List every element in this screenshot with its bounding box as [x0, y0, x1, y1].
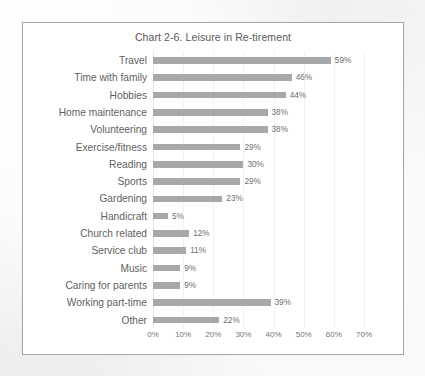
bar — [153, 230, 189, 237]
category-label: Gardening — [23, 190, 147, 207]
bar — [153, 213, 168, 220]
category-label: Service club — [23, 242, 147, 259]
bar-chart-plot-area: Travel59%Time with family46%Hobbies44%Ho… — [23, 23, 405, 356]
bar-value-label: 59% — [335, 52, 351, 69]
bar-row: Gardening23% — [23, 190, 405, 207]
category-label: Travel — [23, 52, 147, 69]
x-axis-tick-label: 50% — [296, 330, 312, 339]
x-axis-tick-label: 60% — [326, 330, 342, 339]
category-label: Reading — [23, 156, 147, 173]
bar — [153, 282, 180, 289]
category-label: Sports — [23, 173, 147, 190]
bar-row: Church related12% — [23, 225, 405, 242]
bar — [153, 299, 271, 306]
bar — [153, 196, 222, 203]
bar-row: Working part-time39% — [23, 294, 405, 311]
x-axis-tick-label: 40% — [266, 330, 282, 339]
bar-row: Handicraft5% — [23, 208, 405, 225]
bar-value-label: 22% — [223, 312, 239, 329]
category-label: Other — [23, 312, 147, 329]
bar-value-label: 11% — [190, 242, 206, 259]
bar-value-label: 29% — [244, 173, 260, 190]
bar — [153, 57, 331, 64]
category-label: Music — [23, 260, 147, 277]
bar-row: Sports29% — [23, 173, 405, 190]
bar-row: Service club11% — [23, 242, 405, 259]
bar-value-label: 5% — [172, 208, 184, 225]
category-label: Hobbies — [23, 87, 147, 104]
x-axis-tick-label: 10% — [175, 330, 191, 339]
bar — [153, 161, 243, 168]
bar — [153, 247, 186, 254]
category-label: Church related — [23, 225, 147, 242]
bar-value-label: 30% — [247, 156, 263, 173]
scanned-page: Chart 2-6. Leisure in Re-tirement Travel… — [0, 0, 425, 376]
chart-frame: Chart 2-6. Leisure in Re-tirement Travel… — [22, 22, 404, 355]
category-label: Home maintenance — [23, 104, 147, 121]
bar-row: Home maintenance38% — [23, 104, 405, 121]
category-label: Time with family — [23, 69, 147, 86]
category-label: Caring for parents — [23, 277, 147, 294]
bar-row: Exercise/fitness29% — [23, 139, 405, 156]
bar-row: Music9% — [23, 260, 405, 277]
bar-row: Time with family46% — [23, 69, 405, 86]
bar-value-label: 38% — [272, 104, 288, 121]
bar — [153, 109, 268, 116]
bar-row: Travel59% — [23, 52, 405, 69]
bar-row: Volunteering38% — [23, 121, 405, 138]
category-label: Working part-time — [23, 294, 147, 311]
bar-value-label: 38% — [272, 121, 288, 138]
x-axis-tick-label: 30% — [235, 330, 251, 339]
bar-row: Hobbies44% — [23, 87, 405, 104]
bar — [153, 178, 240, 185]
category-label: Handicraft — [23, 208, 147, 225]
bar-row: Caring for parents9% — [23, 277, 405, 294]
bar-value-label: 9% — [184, 260, 196, 277]
bar — [153, 144, 240, 151]
bar-value-label: 44% — [290, 87, 306, 104]
bar — [153, 317, 219, 324]
x-axis-tick-label: 20% — [205, 330, 221, 339]
bar-value-label: 29% — [244, 139, 260, 156]
bar-row: Other22% — [23, 312, 405, 329]
x-axis-tick-label: 70% — [356, 330, 372, 339]
bar-value-label: 9% — [184, 277, 196, 294]
bar — [153, 92, 286, 99]
bar — [153, 265, 180, 272]
bar-value-label: 12% — [193, 225, 209, 242]
bar-row: Reading30% — [23, 156, 405, 173]
category-label: Exercise/fitness — [23, 139, 147, 156]
bar-value-label: 46% — [296, 69, 312, 86]
x-axis-tick-label: 0% — [147, 330, 159, 339]
bar-value-label: 39% — [275, 294, 291, 311]
category-label: Volunteering — [23, 121, 147, 138]
bar — [153, 74, 292, 81]
bar — [153, 126, 268, 133]
bar-value-label: 23% — [226, 190, 242, 207]
